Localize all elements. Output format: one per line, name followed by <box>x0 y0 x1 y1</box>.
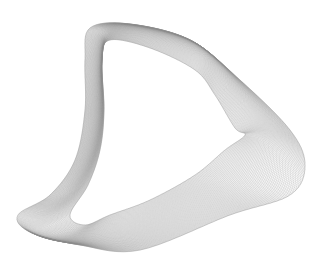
mesh-surface-canvas <box>0 0 332 273</box>
mesh-surface-figure <box>0 0 332 273</box>
